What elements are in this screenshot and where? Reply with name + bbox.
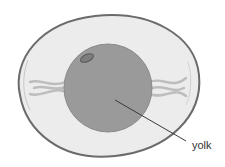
yolk <box>64 44 152 132</box>
yolk-label: yolk <box>192 140 212 151</box>
